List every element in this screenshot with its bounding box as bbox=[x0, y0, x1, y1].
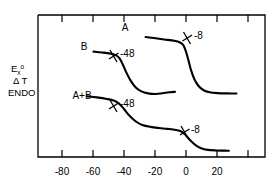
curve-series-group bbox=[87, 37, 237, 151]
frame-border bbox=[38, 15, 265, 157]
x-tick-label-5: 20 bbox=[211, 166, 223, 177]
curve-label-a: A bbox=[122, 22, 129, 33]
x-tick-label-4: 0 bbox=[183, 166, 189, 177]
dsc-thermogram-figure: -80 -60 -40 -20 0 20 Exo Δ T ENDO bbox=[0, 0, 272, 182]
x-tick-label-1: -60 bbox=[86, 166, 101, 177]
x-tick-label-3: -20 bbox=[148, 166, 163, 177]
y-axis-label: Exo Δ T ENDO bbox=[8, 63, 35, 98]
top-axis-ticks bbox=[62, 15, 248, 22]
curve-a bbox=[146, 37, 237, 94]
y-axis-label-line1: Exo bbox=[11, 63, 25, 76]
y-axis-label-line3: ENDO bbox=[8, 87, 35, 98]
annotation-ab-minus8: -8 bbox=[191, 124, 200, 135]
curve-label-b: B bbox=[81, 41, 88, 52]
curve-a-plus-b bbox=[87, 96, 229, 151]
chart-svg: -80 -60 -40 -20 0 20 Exo Δ T ENDO bbox=[0, 0, 272, 182]
x-tick-labels: -80 -60 -40 -20 0 20 bbox=[55, 166, 223, 177]
x-tick-label-2: -40 bbox=[117, 166, 132, 177]
curve-label-a-plus-b: A+B bbox=[72, 90, 92, 101]
onset-marker-ab-minus48-stroke2 bbox=[109, 103, 119, 109]
annotation-b-minus48: -48 bbox=[120, 48, 135, 59]
plot-frame bbox=[38, 15, 265, 157]
annotation-a-minus8: -8 bbox=[194, 30, 203, 41]
x-tick-label-0: -80 bbox=[55, 166, 70, 177]
annotation-ab-minus48: -48 bbox=[120, 98, 135, 109]
y-axis-label-line2: Δ T bbox=[13, 75, 27, 86]
onset-marker-a-minus8-stroke2 bbox=[183, 35, 193, 41]
